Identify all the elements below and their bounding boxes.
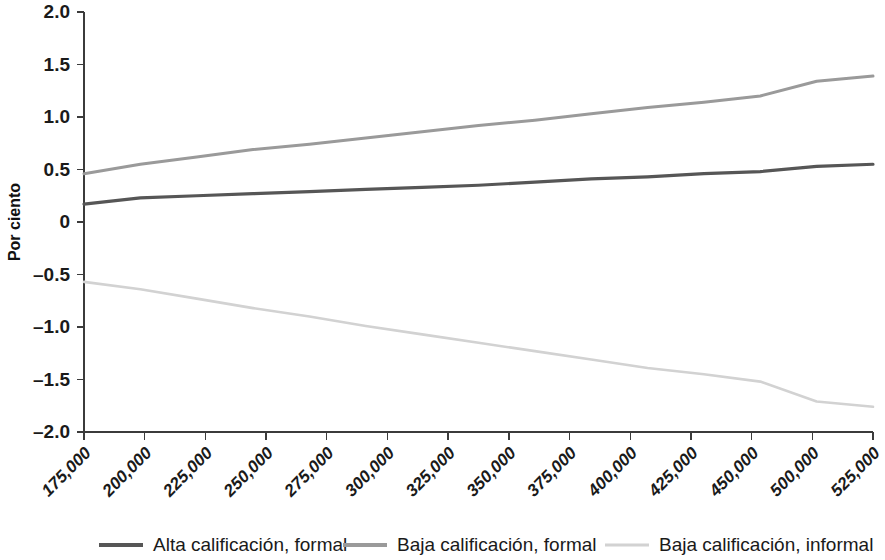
line-chart-svg: Por ciento 2.01.51.00.50–0.5–1.0–1.5–2.0… xyxy=(0,0,885,560)
y-tick-label: 0.5 xyxy=(44,159,71,180)
y-tick-label: –1.0 xyxy=(33,316,70,337)
y-tick-label: 2.0 xyxy=(44,1,70,22)
legend-item-label: Alta calificación, formal xyxy=(153,534,347,555)
legend-item-label: Baja calificación, formal xyxy=(397,534,597,555)
y-axis-title-label: Por ciento xyxy=(6,183,23,261)
y-tick-label: 1.5 xyxy=(44,54,71,75)
y-tick-label: 0 xyxy=(59,211,70,232)
y-tick-label: 1.0 xyxy=(44,106,70,127)
y-axis-title: Por ciento xyxy=(6,183,23,261)
y-tick-label: –2.0 xyxy=(33,421,70,442)
chart-legend: Alta calificación, formalBaja calificaci… xyxy=(99,534,873,555)
chart-figure: Por ciento 2.01.51.00.50–0.5–1.0–1.5–2.0… xyxy=(0,0,885,560)
y-tick-label: –1.5 xyxy=(33,369,70,390)
y-tick-label: –0.5 xyxy=(33,264,70,285)
legend-item-label: Baja calificación, informal xyxy=(659,534,873,555)
